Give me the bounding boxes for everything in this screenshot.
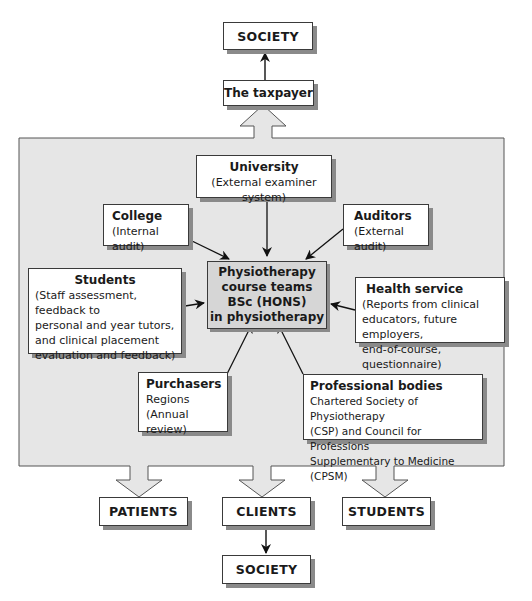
college-line: (Internal audit)	[112, 224, 188, 254]
purchasers-line-1: Regions	[146, 392, 227, 407]
purchasers-line-2: (Annual review)	[146, 407, 227, 437]
patients-label: PATIENTS	[100, 498, 187, 525]
students-input-line-2: personal and year tutors,	[35, 318, 181, 333]
auditors-box: Auditors (External audit)	[343, 204, 429, 246]
students-input-line-4: evaluation and feedback)	[35, 348, 181, 363]
professional-bodies-line-3: Supplementary to Medicine (CPSM)	[310, 454, 482, 484]
students-input-line-3: and clinical placement	[35, 333, 181, 348]
auditors-title: Auditors	[354, 209, 428, 224]
students-output-box: STUDENTS	[342, 497, 431, 526]
clients-box: CLIENTS	[222, 497, 311, 526]
center-line-1: Physiotherapy	[208, 265, 326, 280]
students-input-box: Students (Staff assessment, feedback to …	[28, 268, 182, 354]
taxpayer-label: The taxpayer	[224, 81, 313, 105]
auditors-line: (External audit)	[354, 224, 428, 254]
professional-bodies-line-1: Chartered Society of Physiotherapy	[310, 394, 482, 424]
professional-bodies-title: Professional bodies	[310, 379, 482, 394]
health-service-title: Health service	[362, 282, 504, 297]
society-bottom-label: SOCIETY	[223, 556, 310, 583]
college-box: College (Internal audit)	[103, 204, 189, 246]
center-course-teams-box: Physiotherapy course teams BSc (HONS) in…	[207, 261, 327, 329]
health-service-line-3: end-of-course, questionnaire)	[362, 342, 504, 372]
health-service-box: Health service (Reports from clinical ed…	[355, 277, 505, 343]
society-top-label: SOCIETY	[224, 23, 312, 49]
taxpayer-box: The taxpayer	[223, 80, 314, 106]
purchasers-title: Purchasers	[146, 377, 227, 392]
quality-assurance-diagram: SOCIETY The taxpayer University (Externa…	[0, 0, 532, 601]
professional-bodies-box: Professional bodies Chartered Society of…	[303, 374, 483, 440]
professional-bodies-line-2: (CSP) and Council for Professions	[310, 424, 482, 454]
college-title: College	[112, 209, 188, 224]
university-line: (External examiner system)	[197, 175, 331, 205]
university-box: University (External examiner system)	[196, 155, 332, 198]
center-line-3: BSc (HONS)	[208, 295, 326, 310]
students-output-label: STUDENTS	[343, 498, 430, 525]
purchasers-box: Purchasers Regions (Annual review)	[138, 372, 228, 432]
center-line-4: in physiotherapy	[208, 310, 326, 325]
clients-label: CLIENTS	[223, 498, 310, 525]
patients-box: PATIENTS	[99, 497, 188, 526]
health-service-line-1: (Reports from clinical	[362, 297, 504, 312]
center-line-2: course teams	[208, 280, 326, 295]
society-top-box: SOCIETY	[223, 22, 313, 50]
society-bottom-box: SOCIETY	[222, 555, 311, 584]
health-service-line-2: educators, future employers,	[362, 312, 504, 342]
university-title: University	[197, 160, 331, 175]
students-input-title: Students	[35, 273, 181, 288]
students-input-line-1: (Staff assessment, feedback to	[35, 288, 181, 318]
